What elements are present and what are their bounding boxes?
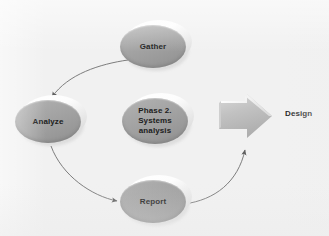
node-gather[interactable]: Gather xyxy=(120,25,186,68)
diagram-canvas: Gather Analyze Phase 2. Systems analysis… xyxy=(0,0,329,236)
node-face: Report xyxy=(120,180,186,223)
node-report[interactable]: Report xyxy=(120,180,186,223)
design-label: Design xyxy=(285,109,312,118)
node-face: Phase 2. Systems analysis xyxy=(122,98,188,144)
connector-analyze-to-report xyxy=(51,146,117,201)
node-analyze[interactable]: Analyze xyxy=(15,100,81,143)
node-phase-systems-analysis[interactable]: Phase 2. Systems analysis xyxy=(122,98,188,144)
connector-gather-to-analyze xyxy=(52,60,128,97)
node-label-gather: Gather xyxy=(140,42,166,52)
node-label-analyze: Analyze xyxy=(33,117,64,127)
node-face: Gather xyxy=(120,25,186,68)
node-face: Analyze xyxy=(15,100,81,143)
connector-report-to-design xyxy=(184,150,245,204)
design-block-arrow xyxy=(219,94,272,138)
node-label-report: Report xyxy=(140,197,166,207)
node-label-phase-systems-analysis: Phase 2. Systems analysis xyxy=(138,106,172,136)
